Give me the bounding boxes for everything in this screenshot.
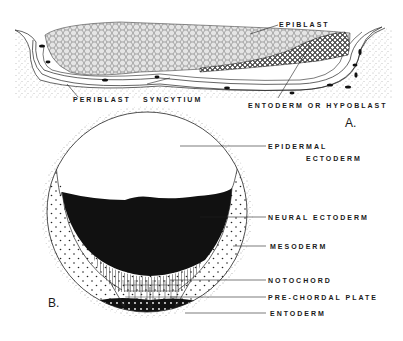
label-notochord: NOTOCHORD [268,277,332,284]
label-entoderm: ENTODERM [270,310,326,317]
label-syncytium: SYNCYTIUM [143,96,202,103]
embryo-diagram: EPIBLAST PERIBLAST SYNCYTIUM ENTODERM OR… [0,0,403,341]
figure-b: EPIDERMAL ECTODERM NEURAL ECTODERM MESOD… [40,100,378,325]
panel-letter-a: A. [345,116,356,130]
label-neural-ectoderm: NEURAL ECTODERM [268,214,369,221]
label-periblast: PERIBLAST [73,96,131,103]
panel-letter-b: B. [48,296,59,310]
label-epidermal: EPIDERMAL [268,143,327,150]
label-mesoderm: MESODERM [270,243,327,250]
label-ectoderm: ECTODERM [306,155,362,162]
figure-a: EPIBLAST PERIBLAST SYNCYTIUM ENTODERM OR… [15,21,392,130]
label-entoderm-hypoblast: ENTODERM OR HYPOBLAST [248,102,388,109]
label-epiblast: EPIBLAST [279,21,330,28]
label-prechordal-plate: PRE-CHORDAL PLATE [268,294,378,301]
